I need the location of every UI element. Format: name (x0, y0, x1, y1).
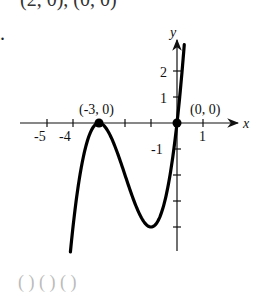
point-label-0-0: (0, 0) (190, 102, 221, 118)
footer-text-fragment: ( ) ( ) ( ) (18, 272, 76, 293)
y-tick-label-1: 1 (160, 91, 167, 106)
intercept-point (95, 119, 104, 128)
function-curve (70, 45, 184, 252)
x-tick-label-neg4: -4 (59, 129, 71, 144)
x-tick-label-1: 1 (199, 129, 206, 144)
y-tick-label-neg1: -1 (151, 142, 163, 157)
x-tick-label-neg5: -5 (34, 129, 46, 144)
intercept-point (173, 119, 182, 128)
y-axis-label: y (168, 25, 177, 40)
y-tick-label-2: 2 (160, 65, 167, 80)
x-axis-label: x (242, 116, 250, 131)
point-label-neg3-0: (-3, 0) (79, 102, 114, 118)
